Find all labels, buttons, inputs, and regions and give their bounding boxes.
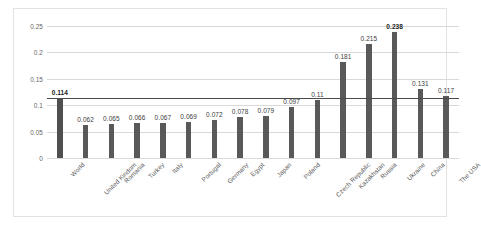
- x-axis-category-label: Italy: [170, 161, 183, 174]
- x-axis-category-label: Egypt: [249, 161, 266, 178]
- bar-data-label: 0.215: [361, 35, 378, 42]
- x-axis-category-label: Turkey: [147, 161, 166, 180]
- bar-data-label: 0.066: [129, 114, 146, 121]
- x-axis-category-label: China: [429, 161, 446, 178]
- x-axis-category-label: Germany: [226, 161, 250, 185]
- x-axis-category-label: Ukraine: [405, 161, 426, 182]
- bar: [315, 100, 321, 158]
- bar: [366, 44, 372, 158]
- x-axis-category-label: Japan: [275, 161, 292, 178]
- bar-data-label: 0.072: [206, 111, 223, 118]
- bar-data-label: 0.114: [52, 89, 68, 96]
- x-axis-category-label: The USA: [458, 161, 481, 185]
- bar: [160, 123, 166, 158]
- bar: [109, 124, 115, 158]
- y-axis-tick-label: 0.05: [30, 128, 43, 135]
- bar: [57, 98, 64, 158]
- y-axis-tick-label: 0.15: [30, 75, 43, 82]
- bar: [340, 62, 346, 158]
- bar: [289, 107, 295, 158]
- bar-data-label: 0.097: [283, 98, 300, 105]
- bar-data-label: 0.181: [335, 53, 352, 60]
- bar: [186, 122, 192, 158]
- plot-area: 00.050.10.150.20.25 0.1140.0620.0650.066…: [47, 26, 459, 158]
- bar-data-label: 0.069: [180, 113, 197, 120]
- bar-data-label: 0.238: [386, 23, 403, 30]
- bar-data-label: 0.11: [311, 91, 323, 98]
- bar-data-label: 0.067: [155, 114, 172, 121]
- y-axis-tick-label: 0.1: [34, 102, 43, 109]
- bar: [237, 117, 243, 158]
- bar: [418, 89, 424, 158]
- x-axis-category-labels: WorldUnited KindomRomaniaTurkeyItalyPort…: [47, 161, 459, 221]
- x-axis-category-label: Portugal: [200, 161, 222, 183]
- y-axis-tick-label: 0.25: [30, 23, 43, 30]
- bar: [392, 32, 398, 158]
- reference-line: [47, 98, 459, 99]
- bar-data-label: 0.065: [103, 115, 120, 122]
- bar-data-label: 0.117: [438, 87, 454, 94]
- bar: [263, 116, 269, 158]
- x-axis-category-label: Poland: [302, 161, 321, 180]
- chart-frame: 00.050.10.150.20.25 0.1140.0620.0650.066…: [13, 8, 447, 217]
- bar-data-label: 0.062: [77, 116, 94, 123]
- y-axis-tick-label: 0: [39, 155, 43, 162]
- x-axis-category-label: World: [69, 161, 86, 178]
- bar: [83, 125, 89, 158]
- bar: [134, 123, 140, 158]
- bar-data-label: 0.079: [258, 107, 275, 114]
- gridline: [47, 158, 459, 159]
- bar: [443, 96, 449, 158]
- bar: [212, 120, 218, 158]
- bar-data-label: 0.078: [232, 108, 249, 115]
- y-axis-tick-label: 0.2: [34, 49, 43, 56]
- bar-data-label: 0.131: [412, 80, 429, 87]
